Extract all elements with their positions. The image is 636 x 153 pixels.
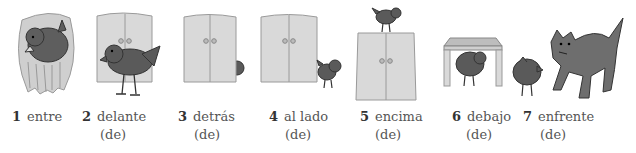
sub-enfrente: (de) xyxy=(540,127,566,142)
bird-behind-wardrobe-icon xyxy=(172,0,262,100)
label-debajo: 6debajo xyxy=(452,109,511,124)
bird-under-table-icon xyxy=(440,0,510,100)
sub-detras: (de) xyxy=(194,127,220,142)
panel-entre: 1entre xyxy=(0,0,90,153)
bird-in-hands-icon xyxy=(0,0,90,100)
bird-on-top-of-wardrobe-icon xyxy=(350,0,430,105)
label-detras: 3detrás xyxy=(178,109,235,124)
label-entre: 1entre xyxy=(12,109,62,124)
panel-al-lado: 4al lado (de) xyxy=(255,0,350,153)
panel-delante: 2delante (de) xyxy=(82,0,172,153)
panel-enfrente: 7enfrente (de) xyxy=(505,0,636,153)
sub-al-lado: (de) xyxy=(285,127,311,142)
sub-delante: (de) xyxy=(100,127,126,142)
sub-debajo: (de) xyxy=(466,127,492,142)
bird-beside-wardrobe-icon xyxy=(255,0,350,100)
panel-detras: 3detrás (de) xyxy=(172,0,262,153)
bird-facing-cat-icon xyxy=(505,0,636,105)
panel-encima: 5encima (de) xyxy=(350,0,430,153)
label-encima: 5encima xyxy=(360,109,423,124)
label-al-lado: 4al lado xyxy=(269,109,328,124)
label-delante: 2delante xyxy=(82,109,146,124)
label-enfrente: 7enfrente xyxy=(523,109,594,124)
sub-encima: (de) xyxy=(375,127,401,142)
bird-in-front-of-wardrobe-icon xyxy=(82,0,172,100)
panel-debajo: 6debajo (de) xyxy=(440,0,510,153)
